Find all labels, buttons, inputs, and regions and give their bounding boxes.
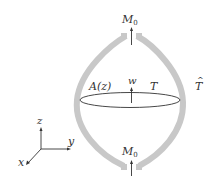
top-neck-left [121, 33, 127, 39]
membrane-right [137, 36, 183, 166]
bottom-neck-right [136, 164, 142, 170]
bottom-arrow-head [130, 160, 133, 164]
membrane-diagram: M0 M0 A(z) w T T ^ z y x [0, 0, 213, 180]
membrane-left [77, 36, 126, 166]
y-axis-label: y [67, 135, 75, 148]
x-axis-label: x [18, 156, 25, 169]
z-axis-label: z [36, 115, 43, 126]
moment-top-label: M0 [121, 13, 138, 27]
area-label: A(z) [88, 80, 111, 93]
bottom-neck-left [121, 164, 127, 170]
velocity-label: w [128, 75, 137, 86]
moment-bottom-label: M0 [121, 145, 138, 159]
coordinate-axes [26, 127, 71, 165]
tension-inner-label: T [150, 80, 159, 93]
top-arrow-head [130, 27, 133, 31]
tension-outer-accent: ^ [197, 75, 204, 84]
z-axis-head [40, 127, 43, 131]
cross-section-ellipse [80, 93, 180, 108]
velocity-arrow-head [130, 87, 133, 91]
x-axis [28, 149, 41, 163]
top-neck-right [136, 33, 142, 39]
